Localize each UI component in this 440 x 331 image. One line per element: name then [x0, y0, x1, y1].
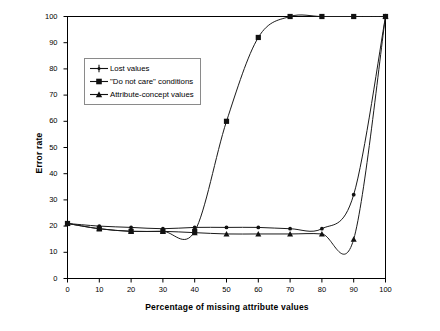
axis-frame	[68, 17, 386, 279]
x-tick-label: 0	[55, 285, 81, 294]
plus-dot-icon	[89, 63, 109, 74]
y-tick-label: 10	[32, 247, 58, 256]
legend-item-attribute-concept-values: Attribute-concept values	[89, 88, 194, 101]
x-axis-title: Percentage of missing attribute values	[67, 302, 387, 312]
y-tick-label: 50	[32, 143, 58, 152]
series-do-not-care-conditions	[65, 14, 388, 240]
x-tick-label: 20	[118, 285, 144, 294]
x-tick-label: 80	[309, 285, 335, 294]
legend-item-lost-values: Lost values	[89, 62, 194, 75]
x-tick-label: 90	[341, 285, 367, 294]
x-tick-label: 30	[150, 285, 176, 294]
legend-label: Lost values	[109, 64, 149, 73]
y-axis-ticks	[64, 17, 68, 279]
y-tick-label: 0	[32, 274, 58, 283]
y-tick-label: 60	[32, 116, 58, 125]
x-tick-label: 70	[277, 285, 303, 294]
legend: Lost values "Do not care" conditions Att…	[84, 58, 201, 105]
x-tick-label: 60	[245, 285, 271, 294]
y-tick-label: 70	[32, 90, 58, 99]
y-tick-label: 80	[32, 64, 58, 73]
y-tick-label: 20	[32, 221, 58, 230]
x-tick-label: 50	[214, 285, 240, 294]
chart-container: Error rate Percentage of missing attribu…	[0, 0, 440, 331]
triangle-icon	[89, 89, 109, 100]
plot-area	[0, 0, 440, 331]
y-tick-label: 30	[32, 195, 58, 204]
y-tick-label: 90	[32, 38, 58, 47]
legend-label: Attribute-concept values	[109, 90, 194, 99]
legend-label: "Do not care" conditions	[109, 77, 193, 86]
x-tick-label: 100	[373, 285, 399, 294]
x-axis-ticks	[68, 279, 386, 283]
series-attribute-concept-values	[65, 14, 389, 255]
y-tick-label: 100	[32, 12, 58, 21]
legend-item-do-not-care-conditions: "Do not care" conditions	[89, 75, 194, 88]
x-tick-label: 40	[182, 285, 208, 294]
square-icon	[89, 76, 109, 87]
x-tick-label: 10	[86, 285, 112, 294]
y-tick-label: 40	[32, 169, 58, 178]
